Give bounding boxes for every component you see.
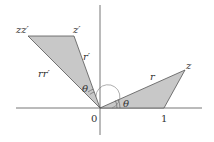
- rrprime-label: rr′: [38, 68, 51, 79]
- z-label: z: [185, 60, 192, 71]
- r-label: r: [150, 71, 156, 82]
- unit-label: 1: [161, 113, 167, 124]
- complex-multiplication-diagram: 0 1 z r θ z′ zz′ r′ rr′ θ: [0, 0, 214, 142]
- zprime-label: z′: [72, 24, 81, 35]
- rprime-label: r′: [83, 51, 91, 62]
- zzprime-label: zz′: [15, 24, 30, 35]
- triangle-0-1-z: [100, 70, 185, 108]
- origin-label: 0: [91, 113, 97, 124]
- theta-label-2: θ: [82, 83, 88, 94]
- theta-label-1: θ: [123, 98, 129, 109]
